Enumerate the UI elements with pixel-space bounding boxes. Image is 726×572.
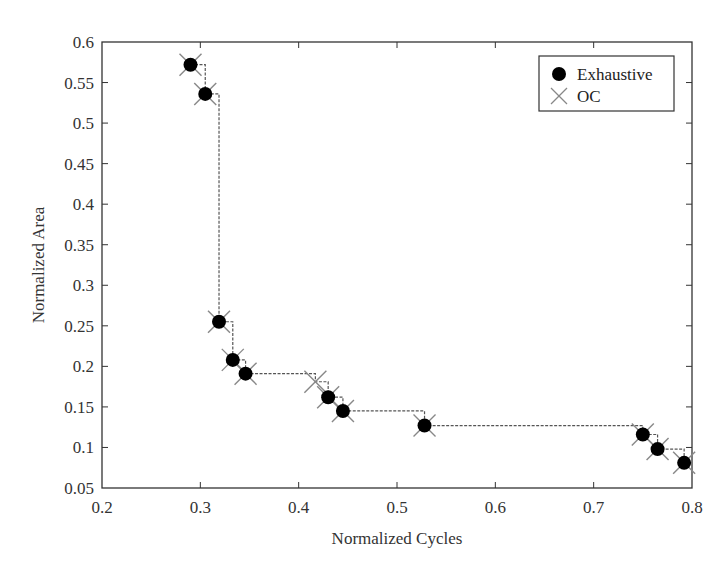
y-tick-label: 0.5 <box>73 114 94 133</box>
y-tick-label: 0.05 <box>64 479 94 498</box>
x-tick-label: 0.7 <box>583 498 605 517</box>
y-tick-label: 0.55 <box>64 74 94 93</box>
y-axis-tick-labels: 0.050.10.150.20.250.30.350.40.450.50.550… <box>64 33 94 498</box>
exhaustive-point-marker <box>212 315 226 329</box>
y-tick-label: 0.1 <box>73 438 94 457</box>
x-axis-title: Normalized Cycles <box>332 529 463 548</box>
legend-oc-label: OC <box>577 87 601 106</box>
y-tick-label: 0.2 <box>73 357 94 376</box>
exhaustive-point-marker <box>226 353 240 367</box>
x-tick-label: 0.2 <box>91 498 112 517</box>
y-tick-label: 0.4 <box>73 195 95 214</box>
pareto-chart: 0.20.30.40.50.60.70.8 0.050.10.150.20.25… <box>0 0 726 572</box>
oc-step-path <box>191 65 685 463</box>
exhaustive-point-marker <box>198 87 212 101</box>
exhaustive-point-marker <box>636 427 650 441</box>
y-tick-label: 0.6 <box>73 33 94 52</box>
legend-exhaustive-label: Exhaustive <box>577 65 653 84</box>
exhaustive-point-marker <box>184 58 198 72</box>
y-tick-label: 0.25 <box>64 317 94 336</box>
y-tick-label: 0.45 <box>64 155 94 174</box>
legend: Exhaustive OC <box>539 56 674 111</box>
oc-step-line <box>191 65 685 463</box>
x-tick-label: 0.5 <box>386 498 407 517</box>
x-tick-label: 0.3 <box>190 498 211 517</box>
x-tick-label: 0.8 <box>681 498 702 517</box>
exhaustive-point-marker <box>321 390 335 404</box>
oc-markers <box>180 54 696 474</box>
y-tick-label: 0.15 <box>64 398 94 417</box>
x-tick-label: 0.4 <box>288 498 310 517</box>
exhaustive-point-marker <box>651 442 665 456</box>
x-axis-tick-labels: 0.20.30.40.50.60.70.8 <box>91 498 702 517</box>
exhaustive-point-marker <box>677 456 691 470</box>
exhaustive-point-marker <box>418 419 432 433</box>
legend-exhaustive-marker-icon <box>552 67 566 81</box>
x-tick-label: 0.6 <box>485 498 506 517</box>
y-axis-title: Normalized Area <box>29 206 48 323</box>
exhaustive-markers <box>184 58 692 470</box>
y-tick-label: 0.35 <box>64 236 94 255</box>
exhaustive-point-marker <box>336 404 350 418</box>
y-tick-label: 0.3 <box>73 276 94 295</box>
exhaustive-point-marker <box>239 367 253 381</box>
